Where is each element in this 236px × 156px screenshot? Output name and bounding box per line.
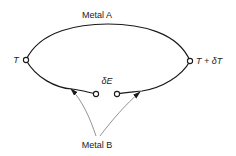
metal-b-left-wire	[26, 60, 96, 94]
right-junction-label: T + δT	[196, 56, 224, 66]
metal-b-label: Metal B	[82, 140, 113, 150]
metal-b-left-arrow	[71, 89, 96, 136]
metal-b-right-arrow	[100, 92, 140, 136]
right-junction-node	[187, 58, 192, 63]
thermocouple-diagram: Metal A T T + δT δE Metal B	[0, 0, 236, 156]
left-junction-node	[23, 57, 28, 62]
metal-a-wire	[26, 24, 190, 61]
right-terminal-node	[114, 91, 119, 96]
left-junction-label: T	[13, 55, 20, 65]
metal-b-right-wire	[117, 61, 190, 94]
emf-label: δE	[101, 76, 113, 86]
left-terminal-node	[93, 91, 98, 96]
metal-a-label: Metal A	[82, 10, 112, 20]
